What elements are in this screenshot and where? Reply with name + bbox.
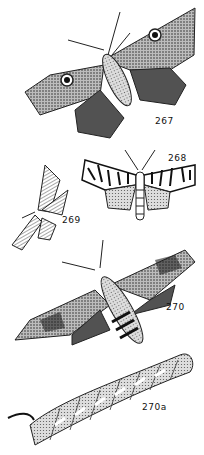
figure-label-267: 267	[155, 116, 174, 126]
illustration-plate	[0, 0, 204, 455]
caterpillar-270a	[8, 354, 193, 445]
figure-label-270a: 270a	[142, 402, 167, 412]
figure-label-268: 268	[168, 153, 187, 163]
moth-270	[15, 240, 195, 348]
moth-269	[12, 165, 68, 250]
figure-label-269: 269	[62, 215, 81, 225]
figure-label-270: 270	[166, 302, 185, 312]
